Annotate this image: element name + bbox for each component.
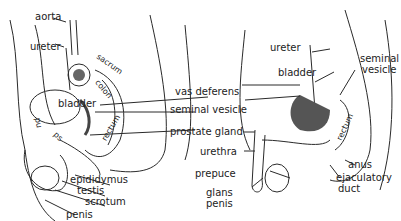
label-anus: anus: [348, 160, 372, 170]
label-glans: glans: [206, 188, 233, 198]
label-vesicle-right: vesicle: [362, 65, 397, 75]
label-urethra: urethra: [200, 147, 237, 157]
label-prepuce: prepuce: [195, 169, 236, 179]
label-ureter-left: ureter: [30, 42, 61, 52]
label-pu: pu: [32, 117, 44, 129]
label-penis: penis: [66, 210, 93, 220]
label-glans-penis: penis: [206, 199, 233, 209]
label-bladder-right: bladder: [278, 68, 316, 78]
label-scrotum: scrotum: [85, 197, 126, 207]
label-seminal-vesicle-center: seminal vesicle: [170, 105, 247, 115]
label-bladder-left: bladder: [58, 99, 96, 109]
label-testis: testis: [77, 186, 104, 196]
label-ureter-right: ureter: [270, 43, 301, 53]
label-seminal-right: seminal: [360, 54, 399, 64]
label-vas-deferens: vas deferens: [175, 87, 239, 97]
label-prostate-gland: prostate gland: [170, 127, 243, 137]
label-ejaculatory: ejaculatory: [336, 173, 392, 183]
label-epididymus: epididymus: [70, 175, 128, 185]
label-duct: duct: [338, 184, 360, 194]
label-aorta: aorta: [35, 12, 61, 22]
